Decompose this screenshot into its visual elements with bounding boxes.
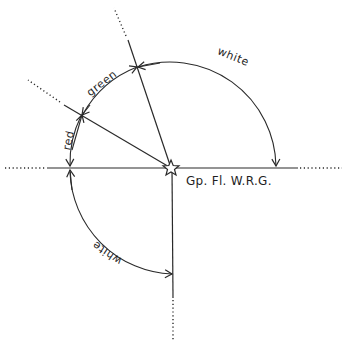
star-icon	[163, 160, 179, 175]
nw-limit-dotted-line	[28, 80, 60, 102]
green-sector-start-arrow	[82, 105, 90, 115]
white-lower-sector-label: white	[90, 238, 125, 267]
green-sector-label: green	[84, 67, 119, 99]
white-sector-arc	[138, 62, 276, 166]
light-characteristic-label: Gp. Fl. W.R.G.	[186, 174, 272, 188]
white-sector-label: white	[216, 45, 252, 69]
nnw-limit-dotted-line	[114, 8, 126, 36]
nw-sector-line	[64, 105, 171, 168]
nnw-sector-line	[128, 40, 171, 168]
light-sector-diagram: white green red white Gp. Fl. W.R.G.	[0, 0, 342, 342]
south-sector-line	[172, 168, 173, 298]
red-sector-label: red	[60, 129, 77, 151]
